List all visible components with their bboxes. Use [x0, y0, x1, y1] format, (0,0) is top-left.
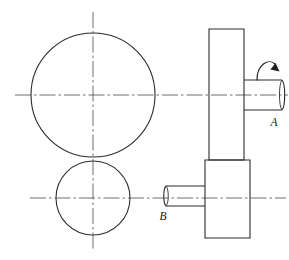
label-b: B: [159, 210, 166, 222]
rotation-arrow: [257, 62, 280, 80]
side-view: [164, 29, 285, 238]
shaft-b: [164, 186, 205, 206]
label-a: A: [269, 116, 278, 128]
shaft-b-end-cap: [164, 186, 166, 206]
rotation-arrow-curve: [257, 62, 275, 80]
rotation-arrow-head: [271, 63, 280, 72]
technical-drawing-canvas: A B: [0, 0, 289, 260]
shaft-b-end-cap-inner: [166, 186, 168, 206]
shaft-a-end-cap: [282, 80, 285, 110]
lower-body-rectangle: [205, 160, 250, 238]
drawing-svg: A B: [0, 0, 289, 260]
upper-body-rectangle: [209, 29, 244, 160]
front-view: [15, 12, 288, 250]
